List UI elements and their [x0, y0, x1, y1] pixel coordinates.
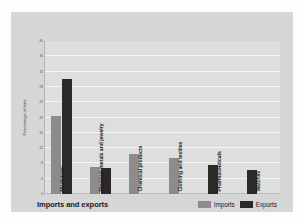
legend-item[interactable]: Exports	[240, 201, 277, 208]
chart-legend: ImportsExports	[198, 201, 277, 208]
chart-figure: Percentage of total 0481216202428323640 …	[0, 0, 304, 223]
category-label: Clothing and textiles	[178, 142, 184, 192]
y-axis-tick-label: 4	[29, 177, 43, 181]
category-label: Chemical products	[139, 146, 145, 192]
legend-label: Imports	[214, 201, 235, 208]
y-axis-tick-label: 40	[29, 39, 43, 43]
legend-label: Exports	[256, 201, 277, 208]
y-axis-tick-labels: 0481216202428323640	[27, 41, 43, 194]
legend-swatch	[240, 201, 253, 208]
category-label: Precious metals and jewelry	[100, 124, 106, 192]
y-axis-tick-label: 16	[29, 131, 43, 135]
chart-title: Imports and exports	[37, 200, 108, 209]
bar-group: Precious metals and jewelry	[84, 41, 123, 194]
plot-area: MachineryPrecious metals and jewelryChem…	[45, 41, 280, 194]
bar-group: Machinery	[45, 41, 84, 194]
bar-group: Pharmaceuticals	[202, 41, 241, 194]
y-axis-tick-label: 32	[29, 70, 43, 74]
y-axis-tick-label: 12	[29, 146, 43, 150]
bar-group: Chemical products	[123, 41, 162, 194]
category-label: Pharmaceuticals	[217, 152, 223, 192]
category-label: Watches	[256, 171, 262, 192]
y-axis-tick-label: 8	[29, 161, 43, 165]
chart-panel: Percentage of total 0481216202428323640 …	[11, 12, 293, 212]
bar-group: Watches	[241, 41, 280, 194]
category-label: Machinery	[60, 167, 66, 192]
legend-swatch	[198, 201, 211, 208]
y-axis-tick-label: 36	[29, 54, 43, 58]
y-axis-tick-label: 0	[29, 192, 43, 196]
bar-group: Clothing and textiles	[163, 41, 202, 194]
legend-item[interactable]: Imports	[198, 201, 235, 208]
y-axis-tick-label: 24	[29, 100, 43, 104]
y-axis-tick-label: 28	[29, 85, 43, 89]
y-axis-tick-label: 20	[29, 116, 43, 120]
